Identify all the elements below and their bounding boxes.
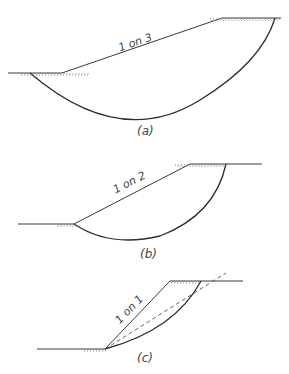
caption-b: (b) xyxy=(140,247,157,261)
slope-diagrams xyxy=(0,0,289,374)
caption-a: (a) xyxy=(137,124,154,138)
caption-c: (c) xyxy=(137,351,153,365)
figure-c xyxy=(37,273,243,352)
